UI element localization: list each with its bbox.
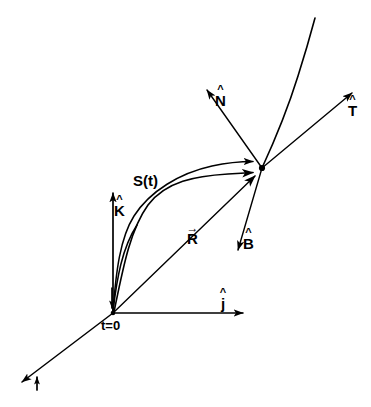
normal-glyph-wrap: ^ N (215, 93, 226, 108)
hat-icon: ^ (116, 194, 122, 205)
origin-node (111, 311, 116, 316)
k-glyph-wrap: ^ K (114, 203, 125, 218)
tangent-glyph-wrap: ^ T (348, 103, 357, 118)
origin-label: t=0 (101, 319, 120, 332)
j-glyph-wrap: ^ j (221, 296, 225, 311)
position-vector-line (113, 176, 255, 313)
diagram-canvas: S(t) → R ^ T ^ N ^ B ^ K (0, 0, 371, 407)
normal-label: ^ N (215, 93, 226, 108)
k-axis-label: ^ K (114, 203, 125, 218)
curve-point-node (259, 165, 265, 171)
position-vector-glyph-wrap: → R (187, 231, 198, 246)
frenet-frame-figure (0, 0, 371, 407)
hat-icon: ^ (245, 227, 251, 238)
hat-icon: ^ (220, 287, 226, 298)
tangent-vector-line (262, 93, 352, 168)
j-axis-label: ^ j (221, 296, 225, 311)
hat-icon: ^ (217, 84, 223, 95)
i-axis-line (22, 313, 113, 382)
binormal-label: ^ B (243, 236, 254, 251)
vector-arrow-icon: → (186, 222, 198, 234)
curve-label: S(t) (133, 173, 158, 188)
tangent-label: ^ T (348, 103, 357, 118)
position-vector-label: → R (187, 231, 198, 246)
hat-icon: ^ (349, 94, 355, 105)
binormal-glyph-wrap: ^ B (243, 236, 254, 251)
